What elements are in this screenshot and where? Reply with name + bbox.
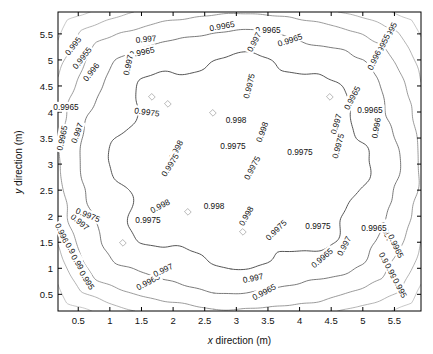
- y-tick-label: 0.5: [40, 289, 53, 300]
- contour-plot-svg: 0.9950.99550.9960.99650.99650.9970.99650…: [0, 0, 433, 354]
- y-tick-label: 4.5: [40, 80, 53, 91]
- contour-label: 0.9975: [219, 141, 248, 151]
- y-tick-label: 2.5: [40, 185, 53, 196]
- x-tick-label: 3.5: [261, 315, 274, 326]
- y-tick-label: 2: [48, 211, 53, 222]
- svg-text:0.9975: 0.9975: [135, 215, 161, 225]
- y-tick-label: 4: [48, 107, 53, 118]
- x-tick-label: 2.5: [198, 315, 211, 326]
- x-tick-label: 1: [107, 315, 112, 326]
- svg-text:0.998: 0.998: [204, 201, 225, 211]
- x-tick-label: 1.5: [135, 315, 148, 326]
- contour-figure: 0.9950.99550.9960.99650.99650.9970.99650…: [0, 0, 433, 354]
- x-axis-label: x direction (m): [208, 335, 271, 346]
- contour-label: 0.998: [224, 115, 249, 125]
- x-tick-label: 0.5: [72, 315, 85, 326]
- x-tick-label: 5: [360, 315, 365, 326]
- y-tick-label: 3.5: [40, 133, 53, 144]
- contour-label: 0.9975: [286, 147, 315, 157]
- svg-text:0.9965: 0.9965: [361, 223, 387, 233]
- x-tick-label: 3: [234, 315, 239, 326]
- y-tick-label: 3: [48, 159, 53, 170]
- svg-text:0.9975: 0.9975: [305, 221, 331, 231]
- contour-label: 0.9965: [356, 105, 385, 115]
- contour-label: 0.9965: [52, 102, 81, 112]
- contour-label: 0.998: [202, 201, 227, 211]
- x-tick-label: 2: [170, 315, 175, 326]
- y-tick-label: 5.5: [40, 28, 53, 39]
- contour-label: 0.9975: [304, 221, 333, 231]
- svg-text:0.998: 0.998: [226, 115, 247, 125]
- y-tick-label: 5: [48, 54, 53, 65]
- y-axis-label: y direction (m): [13, 130, 24, 193]
- x-tick-label: 4.5: [325, 315, 338, 326]
- svg-text:0.9965: 0.9965: [53, 102, 79, 112]
- plot-background: [58, 12, 421, 311]
- svg-text:0.9965: 0.9965: [357, 105, 383, 115]
- y-tick-label: 1: [48, 263, 53, 274]
- svg-text:0.9975: 0.9975: [220, 141, 246, 151]
- x-tick-label: 5.5: [388, 315, 401, 326]
- contour-label: 0.9975: [134, 215, 163, 225]
- contour-label: 0.9965: [360, 223, 389, 233]
- svg-text:0.9975: 0.9975: [287, 147, 313, 157]
- y-tick-label: 1.5: [40, 237, 53, 248]
- x-tick-label: 4: [297, 315, 302, 326]
